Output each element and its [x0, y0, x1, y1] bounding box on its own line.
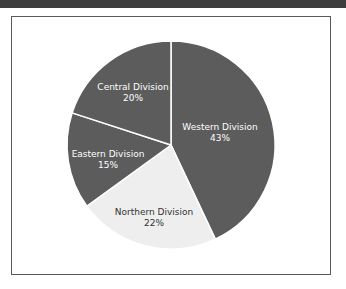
label-eastern-name: Eastern Division — [72, 149, 145, 159]
label-western-name: Western Division — [182, 122, 257, 132]
label-central-pct: 20% — [123, 93, 143, 103]
pie-chart: Western Division 43% Northern Division 2… — [0, 0, 346, 289]
label-eastern-pct: 15% — [98, 160, 118, 170]
label-western-pct: 43% — [210, 133, 230, 143]
label-northern-name: Northern Division — [115, 207, 193, 217]
label-northern-pct: 22% — [144, 218, 164, 228]
label-central-name: Central Division — [97, 82, 168, 92]
